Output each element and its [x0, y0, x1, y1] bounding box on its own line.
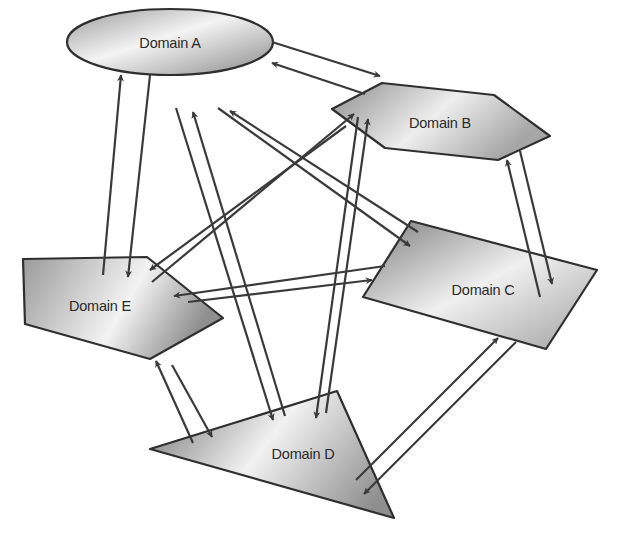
edge-d-to-a: [193, 112, 285, 416]
node-label-e: Domain E: [69, 298, 132, 314]
edge-e-to-d: [172, 365, 212, 437]
node-label-a: Domain A: [139, 35, 201, 51]
node-domain-e[interactable]: Domain E: [23, 257, 223, 359]
node-label-d: Domain D: [272, 446, 335, 462]
edge-d-to-c: [356, 338, 498, 480]
edge-b-to-e: [150, 126, 346, 270]
edge-a-to-b: [272, 42, 380, 76]
edge-e-to-b: [152, 114, 354, 282]
edge-b-to-d: [316, 117, 358, 418]
edge-a-to-d: [176, 108, 273, 420]
node-label-c: Domain C: [452, 282, 515, 298]
edge-e-to-a: [103, 75, 121, 275]
edge-d-to-b: [326, 119, 368, 413]
edge-c-to-d: [364, 342, 516, 494]
node-domain-d[interactable]: Domain D: [150, 391, 394, 518]
node-label-b: Domain B: [409, 115, 471, 131]
node-domain-a[interactable]: Domain A: [67, 9, 273, 75]
node-domain-c[interactable]: Domain C: [363, 221, 597, 349]
edge-a-to-e: [128, 75, 150, 277]
domain-network-diagram: Domain A Domain B Domain C Domain D Doma…: [0, 0, 621, 547]
edge-d-to-e: [156, 361, 193, 443]
